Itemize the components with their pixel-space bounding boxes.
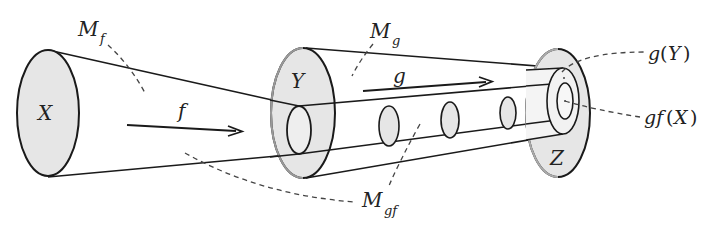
svg-text:g: g: [648, 42, 660, 64]
image-fx-ellipse: [287, 106, 311, 154]
label-z: Z: [549, 146, 565, 170]
svg-text:f: f: [99, 31, 107, 46]
svg-text:M: M: [77, 17, 99, 41]
label-g-of-y: g ( Y ): [648, 42, 690, 64]
leader-mg: [352, 44, 373, 76]
svg-text:X: X: [672, 106, 689, 128]
label-f: f: [176, 99, 189, 123]
leader-mgf-left: [185, 153, 355, 202]
label-y: Y: [291, 69, 306, 93]
label-x: X: [36, 101, 53, 125]
arrow-f: [127, 125, 242, 136]
mgf-slice-1: [379, 106, 399, 146]
svg-text:): ): [690, 106, 697, 128]
label-gf-of-x: gf ( X ): [644, 106, 697, 128]
label-g: g: [393, 64, 406, 88]
gfx-point: [564, 100, 566, 102]
label-mf: M f: [77, 17, 107, 46]
svg-text:(: (: [666, 106, 673, 128]
svg-text:(: (: [660, 42, 667, 64]
arrow-g: [363, 77, 492, 91]
label-mgf: M gf: [361, 188, 399, 218]
svg-text:Y: Y: [668, 42, 683, 64]
mapping-cylinder-mg: [306, 48, 563, 178]
svg-text:M: M: [369, 19, 391, 43]
mgf-bottom-edge: [299, 119, 565, 154]
mapping-cylinder-mf: [48, 50, 299, 177]
svg-text:M: M: [361, 188, 383, 212]
svg-text:gf: gf: [384, 203, 399, 218]
gy-point: [563, 77, 565, 79]
label-mg: M g: [369, 19, 400, 48]
mgf-slice-3: [500, 97, 516, 129]
svg-text:): ): [683, 42, 690, 64]
mgf-slice-2: [441, 102, 459, 138]
mg-bottom-edge: [306, 134, 563, 178]
mg-top-edge: [306, 48, 563, 68]
mapping-cylinder-diagram: X Y Z f g M f M g M gf g ( Y ) gf ( X ): [0, 0, 716, 227]
mf-top-edge: [48, 50, 299, 106]
mf-bottom-edge: [48, 154, 299, 177]
svg-text:g: g: [392, 33, 400, 48]
mapping-cylinder-mgf: [299, 83, 565, 154]
leader-mf: [108, 45, 145, 93]
svg-text:gf: gf: [644, 106, 666, 128]
